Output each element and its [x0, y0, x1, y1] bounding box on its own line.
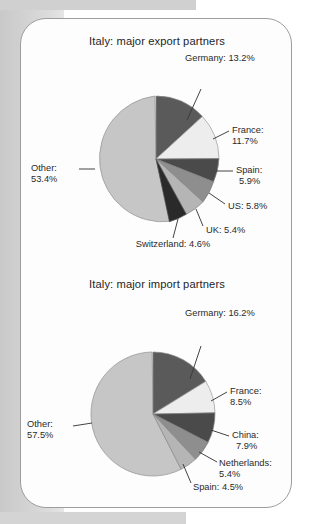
- export-label-us: US: 5.8%: [228, 201, 267, 212]
- export-label-spain: Spain:: [236, 165, 262, 176]
- import-label-other: Other:: [27, 419, 53, 430]
- export-label-other-value: 53.4%: [31, 174, 57, 185]
- import-label-china: China:: [232, 430, 259, 441]
- import-pie-chart: Italy: major import partners: [21, 264, 292, 508]
- export-label-germany: Germany: 13.2%: [185, 53, 255, 64]
- leader-spain: [183, 464, 191, 483]
- leader-netherlands: [199, 452, 217, 462]
- leader-china: [211, 430, 229, 436]
- leader-switzerland: [173, 219, 178, 238]
- import-label-netherlands-value: 5.4%: [219, 469, 240, 480]
- export-label-france-value: 11.7%: [232, 136, 258, 147]
- export-pie-slices: [100, 96, 219, 222]
- import-label-other-value: 57.5%: [27, 430, 53, 441]
- export-label-spain-value: 5.9%: [239, 176, 260, 187]
- figure-card: Italy: major export partners: [20, 18, 292, 508]
- leader-uk: [196, 209, 203, 226]
- import-label-spain: Spain: 4.5%: [193, 482, 243, 493]
- export-label-france: France:: [232, 125, 264, 136]
- export-label-uk: UK: 5.4%: [206, 225, 245, 236]
- import-label-china-value: 7.9%: [236, 441, 257, 452]
- figure-page: Italy: major export partners: [0, 0, 309, 524]
- export-label-switzerland: Switzerland: 4.6%: [107, 239, 239, 250]
- leader-france: [213, 131, 229, 139]
- import-label-germany: Germany: 16.2%: [185, 308, 255, 319]
- import-label-france-value: 8.5%: [230, 397, 251, 408]
- export-pie-chart: Italy: major export partners: [21, 19, 292, 264]
- export-label-other: Other:: [31, 163, 57, 174]
- page-gutter-top-edge: [0, 0, 196, 10]
- leader-other: [73, 423, 92, 426]
- leader-us: [209, 193, 225, 204]
- import-label-france: France:: [230, 386, 262, 397]
- import-pie-slices: [91, 352, 215, 476]
- import-label-netherlands: Netherlands:: [219, 458, 272, 469]
- page-gutter-bottom-edge: [0, 512, 186, 524]
- leader-france: [211, 392, 227, 401]
